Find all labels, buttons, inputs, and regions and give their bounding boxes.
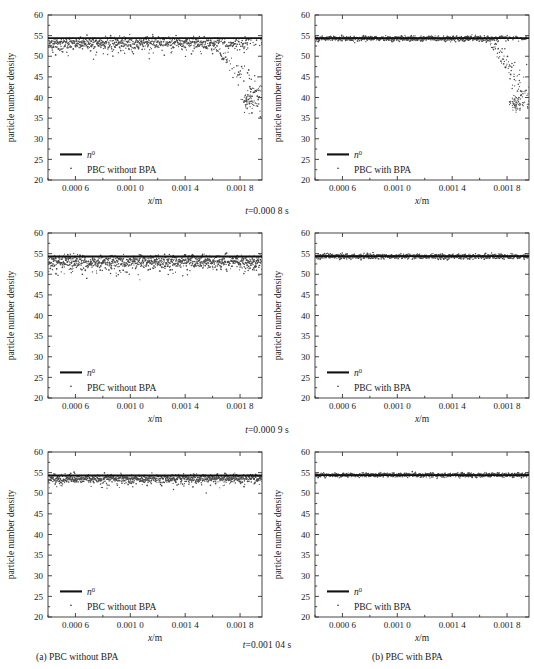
data-point bbox=[69, 264, 71, 266]
data-point bbox=[70, 473, 72, 475]
data-point bbox=[238, 41, 240, 43]
y-axis-label: particle number density bbox=[6, 52, 16, 142]
data-point bbox=[152, 44, 153, 45]
data-point bbox=[447, 39, 449, 41]
data-point bbox=[113, 259, 114, 260]
data-point bbox=[124, 52, 125, 53]
data-point bbox=[224, 485, 225, 486]
data-point bbox=[67, 261, 69, 263]
data-point bbox=[82, 260, 83, 261]
data-point bbox=[232, 265, 233, 266]
data-point bbox=[180, 266, 181, 267]
data-point bbox=[86, 263, 87, 264]
data-point bbox=[137, 258, 138, 259]
data-point bbox=[189, 39, 190, 40]
data-point bbox=[442, 473, 443, 474]
data-point bbox=[161, 485, 163, 487]
data-point bbox=[443, 258, 444, 259]
data-point bbox=[242, 261, 244, 263]
data-point bbox=[203, 266, 204, 267]
y-axis-tick-label: 55 bbox=[301, 249, 311, 259]
data-point bbox=[503, 258, 505, 260]
data-point bbox=[247, 270, 248, 271]
data-point bbox=[506, 65, 507, 66]
data-point bbox=[172, 273, 173, 274]
data-point bbox=[234, 263, 235, 264]
legend-label-pbc: PBC with BPA bbox=[354, 383, 411, 393]
data-point bbox=[64, 473, 65, 474]
data-point bbox=[244, 46, 246, 48]
data-point bbox=[57, 274, 58, 275]
panel-r0c0: 2025303540455055600.000 60.001 00.001 40… bbox=[0, 0, 267, 215]
data-point bbox=[101, 478, 102, 479]
data-point bbox=[234, 482, 236, 484]
data-point bbox=[383, 258, 385, 260]
data-point bbox=[101, 487, 102, 488]
data-point bbox=[247, 96, 248, 97]
data-point bbox=[149, 260, 150, 261]
data-point bbox=[471, 472, 472, 473]
data-point bbox=[246, 478, 248, 480]
data-point bbox=[171, 51, 172, 52]
data-point bbox=[96, 272, 97, 273]
data-point bbox=[108, 479, 109, 480]
data-point bbox=[66, 40, 68, 42]
data-point bbox=[235, 45, 237, 47]
data-point bbox=[137, 44, 138, 45]
data-point bbox=[245, 104, 246, 105]
data-point bbox=[115, 258, 116, 259]
data-point bbox=[180, 40, 181, 41]
data-point bbox=[166, 263, 167, 264]
data-point bbox=[501, 48, 503, 50]
data-point bbox=[169, 267, 170, 268]
data-point bbox=[199, 263, 201, 265]
data-point bbox=[152, 477, 153, 478]
data-point bbox=[505, 40, 507, 42]
data-point bbox=[518, 472, 520, 474]
data-point bbox=[58, 260, 60, 262]
data-point bbox=[110, 273, 112, 275]
data-point bbox=[237, 40, 238, 41]
data-point bbox=[178, 42, 179, 43]
data-point bbox=[228, 264, 230, 266]
data-point bbox=[96, 480, 97, 481]
y-axis-tick-label: 55 bbox=[301, 468, 311, 478]
data-point bbox=[253, 259, 255, 261]
data-point bbox=[456, 35, 457, 36]
data-point bbox=[246, 98, 247, 99]
data-point bbox=[484, 40, 485, 41]
data-point bbox=[75, 261, 77, 263]
x-axis-tick-label: 0.000 6 bbox=[62, 183, 90, 193]
data-point bbox=[54, 259, 55, 260]
data-point bbox=[243, 478, 244, 479]
data-point bbox=[142, 260, 144, 262]
data-point bbox=[92, 39, 94, 41]
data-point bbox=[461, 257, 462, 258]
data-point bbox=[231, 57, 232, 58]
data-point bbox=[169, 477, 170, 478]
data-point bbox=[226, 264, 227, 265]
data-point bbox=[130, 478, 131, 479]
data-point bbox=[326, 476, 327, 477]
data-point bbox=[220, 48, 221, 49]
data-point bbox=[90, 259, 91, 260]
data-point bbox=[68, 55, 69, 56]
data-point bbox=[517, 75, 518, 76]
data-point bbox=[514, 101, 515, 102]
data-point bbox=[90, 261, 91, 262]
data-point bbox=[142, 44, 144, 46]
data-point bbox=[461, 258, 462, 259]
data-point bbox=[518, 104, 519, 105]
data-point bbox=[341, 258, 343, 260]
data-point bbox=[229, 263, 231, 265]
data-point bbox=[79, 264, 80, 265]
data-point bbox=[163, 260, 164, 261]
data-point bbox=[453, 253, 454, 254]
data-point bbox=[126, 265, 127, 266]
data-point bbox=[254, 75, 255, 76]
data-point bbox=[116, 41, 117, 42]
data-point bbox=[255, 265, 257, 267]
data-point bbox=[225, 261, 226, 262]
data-point bbox=[226, 44, 228, 46]
data-point bbox=[227, 51, 228, 52]
